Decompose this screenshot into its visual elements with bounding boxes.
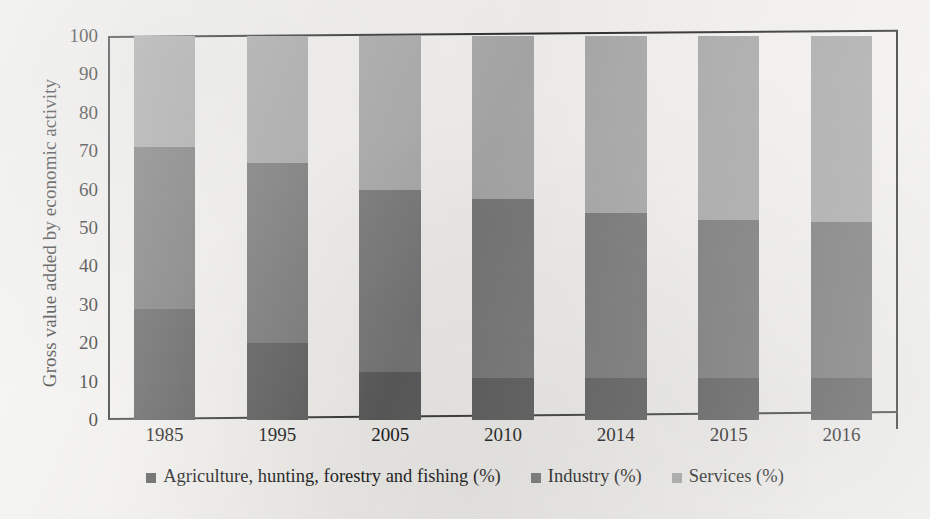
y-axis-title: Gross value added by economic activity (39, 33, 61, 433)
bar-segment-2005-series-2[interactable] (359, 36, 421, 190)
y-axis-tick-100: 100 (70, 25, 99, 47)
legend-item-0[interactable]: Agriculture, hunting, forestry and fishi… (146, 466, 501, 487)
y-axis-tick-80: 80 (79, 102, 98, 124)
bar-segment-2010-series-0[interactable] (472, 378, 534, 420)
bar-stack (134, 36, 196, 420)
bar-segment-2016-series-2[interactable] (811, 36, 873, 222)
bar-group-2015[interactable] (698, 36, 760, 420)
legend-label: Services (%) (689, 466, 784, 487)
legend-swatch-icon-1 (531, 473, 541, 483)
plot-area: 0102030405060708090100 (108, 36, 898, 420)
bar-segment-2010-series-2[interactable] (472, 36, 534, 199)
bar-segment-2016-series-1[interactable] (811, 222, 873, 378)
bar-segment-1995-series-0[interactable] (247, 343, 309, 420)
bar-segment-2005-series-0[interactable] (359, 372, 421, 420)
bar-stack (585, 36, 647, 420)
legend-item-2[interactable]: Services (%) (672, 466, 784, 487)
bar-segment-2015-series-1[interactable] (698, 220, 760, 377)
legend-swatch-icon-2 (672, 473, 682, 483)
bar-stack (247, 36, 309, 420)
bar-group-2014[interactable] (585, 36, 647, 420)
bar-group-1985[interactable] (134, 36, 196, 420)
x-axis-tick-labels: 1985199520052010201420152016 (108, 424, 898, 454)
bar-segment-2014-series-1[interactable] (585, 213, 647, 378)
y-axis-tick-20: 20 (79, 332, 98, 354)
bar-stack (698, 36, 760, 420)
bar-segment-1995-series-2[interactable] (247, 36, 309, 163)
y-axis-tick-50: 50 (79, 217, 98, 239)
x-axis-tick-2016: 2016 (823, 424, 861, 446)
bar-segment-2014-series-0[interactable] (585, 378, 647, 420)
x-axis-tick-2005: 2005 (371, 424, 409, 446)
y-axis-tick-0: 0 (89, 409, 99, 431)
bar-stack (359, 36, 421, 420)
legend-label: Agriculture, hunting, forestry and fishi… (163, 466, 501, 487)
y-axis-tick-70: 70 (79, 140, 98, 162)
bar-stack (811, 36, 873, 420)
y-axis-tick-40: 40 (79, 255, 98, 277)
bar-segment-1995-series-1[interactable] (247, 163, 309, 343)
y-axis-tick-30: 30 (79, 294, 98, 316)
x-axis-tick-2015: 2015 (710, 424, 748, 446)
bar-segment-2016-series-0[interactable] (811, 378, 873, 420)
bar-group-2005[interactable] (359, 36, 421, 420)
bar-segment-2015-series-2[interactable] (698, 36, 760, 220)
bar-segment-2005-series-1[interactable] (359, 190, 421, 372)
bar-segment-1985-series-2[interactable] (134, 36, 196, 147)
x-axis-tick-1995: 1995 (258, 424, 296, 446)
bars-layer (108, 36, 898, 420)
bar-segment-1985-series-0[interactable] (134, 309, 196, 420)
bar-segment-2015-series-0[interactable] (698, 378, 760, 420)
y-axis-tick-90: 90 (79, 63, 98, 85)
stacked-bar-chart: Gross value added by economic activity 0… (0, 0, 930, 519)
bar-group-2016[interactable] (811, 36, 873, 420)
bar-segment-2010-series-1[interactable] (472, 199, 534, 378)
legend-label: Industry (%) (548, 466, 642, 487)
bar-group-2010[interactable] (472, 36, 534, 420)
y-axis-tick-60: 60 (79, 179, 98, 201)
legend-item-1[interactable]: Industry (%) (531, 466, 642, 487)
legend-swatch-icon-0 (146, 473, 156, 483)
y-axis-tick-10: 10 (79, 371, 98, 393)
x-axis-tick-2014: 2014 (597, 424, 635, 446)
x-axis-tick-1985: 1985 (145, 424, 183, 446)
bar-stack (472, 36, 534, 420)
bar-segment-1985-series-1[interactable] (134, 147, 196, 308)
x-axis-tick-2010: 2010 (484, 424, 522, 446)
bar-segment-2014-series-2[interactable] (585, 36, 647, 213)
chart-legend: Agriculture, hunting, forestry and fishi… (0, 466, 930, 487)
bar-group-1995[interactable] (247, 36, 309, 420)
